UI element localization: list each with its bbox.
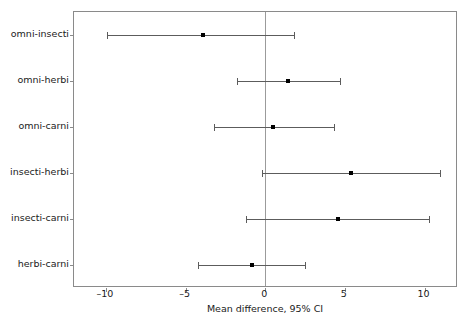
- y-axis-label-omni-insecti: omni-insecti: [0, 29, 69, 39]
- x-axis-tick-label: 0: [244, 288, 284, 299]
- x-axis-tick-label: 5: [324, 288, 364, 299]
- reference-line-zero: [265, 12, 266, 286]
- y-axis-tick: [70, 173, 74, 174]
- ci-upper-cap: [334, 124, 335, 131]
- point-estimate-marker: [250, 263, 254, 267]
- y-axis-tick: [70, 265, 74, 266]
- ci-lower-cap: [214, 124, 215, 131]
- point-estimate-marker: [271, 125, 275, 129]
- ci-upper-cap: [429, 216, 430, 223]
- ci-upper-cap: [340, 78, 341, 85]
- y-axis-label-herbi-carni: herbi-carni: [0, 259, 69, 269]
- ci-lower-cap: [262, 170, 263, 177]
- y-axis-label-insecti-herbi: insecti-herbi: [0, 167, 69, 177]
- x-axis-tick-label: –10: [85, 288, 125, 299]
- plot-area: [74, 12, 456, 286]
- point-estimate-marker: [336, 217, 340, 221]
- point-estimate-marker: [349, 171, 353, 175]
- y-axis-tick: [70, 219, 74, 220]
- plot-frame: [73, 11, 457, 287]
- ci-upper-cap: [440, 170, 441, 177]
- ci-lower-cap: [198, 262, 199, 269]
- y-axis-label-insecti-carni: insecti-carni: [0, 213, 69, 223]
- x-axis-tick-label: 10: [404, 288, 444, 299]
- ci-lower-cap: [237, 78, 238, 85]
- ci-lower-cap: [107, 32, 108, 39]
- forest-plot-figure: Mean difference, 95% CI omni-insectiomni…: [0, 0, 469, 325]
- y-axis-tick: [70, 81, 74, 82]
- y-axis-tick: [70, 127, 74, 128]
- y-axis-tick: [70, 35, 74, 36]
- y-axis-label-omni-herbi: omni-herbi: [0, 75, 69, 85]
- ci-upper-cap: [294, 32, 295, 39]
- ci-upper-cap: [305, 262, 306, 269]
- y-axis-label-omni-carni: omni-carni: [0, 121, 69, 131]
- ci-lower-cap: [246, 216, 247, 223]
- point-estimate-marker: [286, 79, 290, 83]
- point-estimate-marker: [201, 33, 205, 37]
- x-axis-title: Mean difference, 95% CI: [73, 303, 457, 314]
- x-axis-tick-label: –5: [165, 288, 205, 299]
